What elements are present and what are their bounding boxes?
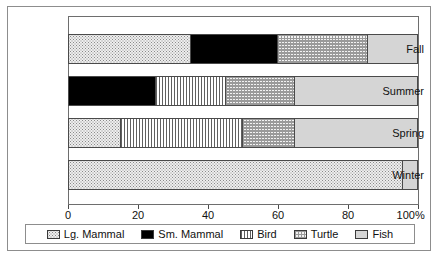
legend-item-sm-mammal: Sm. Mammal [141, 228, 223, 240]
x-tick-label: 80 [342, 209, 354, 221]
bar-segment-turtle [226, 77, 296, 105]
swatch-sm-mammal-icon [141, 230, 154, 239]
legend-item-lg-mammal: Lg. Mammal [47, 228, 125, 240]
category-label-spring: Spring [370, 118, 424, 148]
category-label-fall: Fall [370, 34, 424, 64]
category-label-summer: Summer [370, 76, 424, 106]
x-tick-label: 20 [132, 209, 144, 221]
legend-label: Fish [372, 228, 393, 240]
bar-row-spring [68, 118, 418, 148]
bar-segment-turtle [243, 119, 295, 147]
swatch-turtle-icon [294, 230, 307, 239]
bar-row-winter [68, 160, 418, 190]
chart-legend: Lg. MammalSm. MammalBirdTurtleFish [25, 224, 415, 244]
swatch-bird-icon [240, 230, 253, 239]
x-tick-label: 60 [272, 209, 284, 221]
bar-segment-lg-mammal [69, 161, 403, 189]
x-tick-label: 40 [202, 209, 214, 221]
bar-row-fall [68, 34, 418, 64]
bar-segment-lg-mammal [69, 119, 121, 147]
swatch-fish-icon [355, 230, 368, 239]
legend-label: Bird [257, 228, 277, 240]
x-tick-label: 0 [65, 209, 71, 221]
bar-segment-bird [121, 119, 243, 147]
bar-segment-sm-mammal [69, 77, 156, 105]
stacked-bar [68, 76, 418, 106]
bar-row-summer [68, 76, 418, 106]
stacked-bar [68, 160, 418, 190]
legend-item-bird: Bird [240, 228, 277, 240]
stacked-bar [68, 118, 418, 148]
legend-label: Lg. Mammal [64, 228, 125, 240]
legend-item-turtle: Turtle [294, 228, 339, 240]
plot-area [68, 16, 419, 205]
category-label-winter: Winter [370, 160, 424, 190]
legend-item-fish: Fish [355, 228, 393, 240]
x-tick-label: 100% [397, 209, 425, 221]
legend-label: Sm. Mammal [158, 228, 223, 240]
bar-segment-lg-mammal [69, 35, 191, 63]
chart-figure: FallSummerSpringWinter 020406080100% Lg.… [7, 6, 431, 251]
legend-label: Turtle [311, 228, 339, 240]
bar-segment-sm-mammal [191, 35, 278, 63]
stacked-bar [68, 34, 418, 64]
bar-segment-bird [156, 77, 226, 105]
swatch-lg-mammal-icon [47, 230, 60, 239]
bar-segment-turtle [278, 35, 368, 63]
